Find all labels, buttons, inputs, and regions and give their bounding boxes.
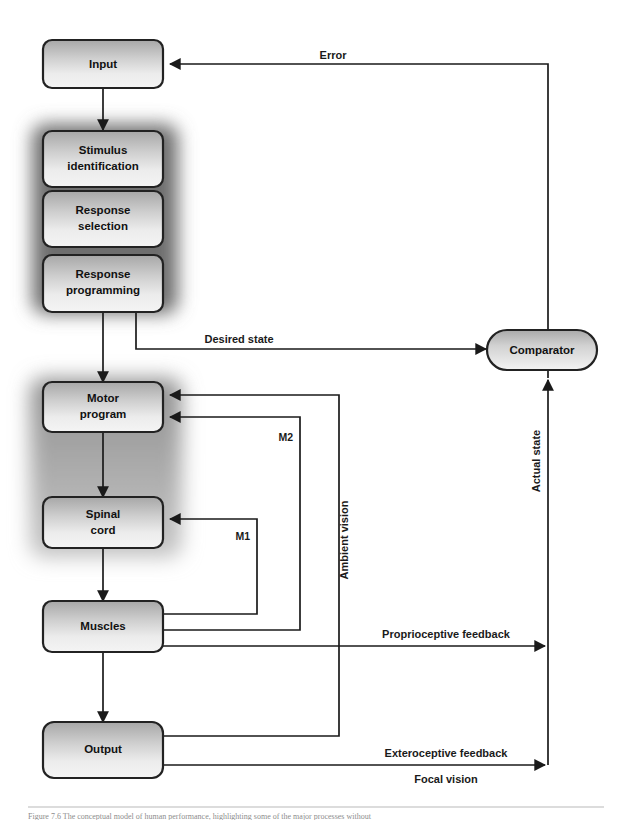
figure-root: Input Stimulus identification Response s…: [0, 0, 626, 820]
node-spinal-cord-label-line1: Spinal: [86, 508, 121, 520]
edge-label-proprioceptive-feedback: Proprioceptive feedback: [382, 628, 511, 640]
node-stimulus-identification-label-line1: Stimulus: [79, 144, 128, 156]
edge-label-focal-vision: Focal vision: [414, 773, 478, 785]
node-stimulus-identification-label-line2: identification: [67, 160, 139, 172]
edge-label-desired-state: Desired state: [204, 333, 273, 345]
node-muscles-label: Muscles: [80, 620, 125, 632]
node-response-selection-label-line1: Response: [76, 204, 131, 216]
node-spinal-cord-label-line2: cord: [91, 524, 116, 536]
edge-ambient-vision: [163, 395, 339, 736]
edge-label-m1: M1: [235, 530, 250, 542]
edge-m2-loop: [163, 417, 300, 630]
node-comparator-label: Comparator: [509, 344, 575, 356]
node-output[interactable]: Output: [43, 722, 163, 778]
edge-label-m2: M2: [278, 431, 293, 443]
node-response-selection-label-line2: selection: [78, 220, 128, 232]
node-output-label: Output: [84, 743, 122, 755]
node-muscles[interactable]: Muscles: [43, 601, 163, 652]
node-response-programming-label-line2: programming: [66, 284, 140, 296]
node-response-programming[interactable]: Response programming: [43, 255, 163, 312]
edge-label-actual-state: Actual state: [530, 430, 542, 492]
node-motor-program-label-line1: Motor: [87, 392, 119, 404]
node-comparator[interactable]: Comparator: [487, 330, 597, 370]
edge-label-exteroceptive-feedback: Exteroceptive feedback: [385, 747, 509, 759]
node-input-label: Input: [89, 58, 117, 70]
edge-error: [170, 64, 548, 378]
figure-caption: Figure 7.6 The conceptual model of human…: [28, 812, 372, 820]
edge-desired-state: [136, 312, 486, 349]
node-response-programming-label-line1: Response: [76, 268, 131, 280]
node-spinal-cord[interactable]: Spinal cord: [43, 497, 163, 548]
node-stimulus-identification[interactable]: Stimulus identification: [43, 131, 163, 187]
edge-label-ambient-vision: Ambient vision: [338, 500, 350, 579]
edge-label-error: Error: [320, 49, 348, 61]
node-input[interactable]: Input: [43, 40, 163, 88]
node-motor-program-label-line2: program: [80, 408, 127, 420]
conceptual-model-diagram: Input Stimulus identification Response s…: [0, 0, 626, 820]
node-motor-program[interactable]: Motor program: [43, 382, 163, 432]
node-response-selection[interactable]: Response selection: [43, 191, 163, 247]
